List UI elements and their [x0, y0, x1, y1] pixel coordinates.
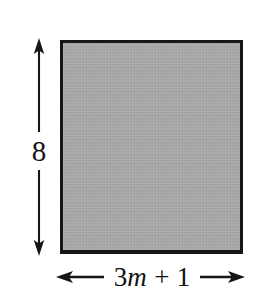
height-dimension-label: 8: [26, 132, 52, 170]
width-arrow-head-right: [228, 271, 245, 283]
width-label-variable: m: [127, 262, 147, 292]
width-label-coefficient: 3: [114, 262, 128, 292]
width-dimension-label: 3m + 1: [104, 262, 200, 292]
width-label-constant: 1: [177, 262, 191, 292]
figure-canvas: 8 3m + 1: [0, 0, 263, 293]
shaded-rectangle: [60, 40, 243, 254]
width-arrow-head-left: [56, 271, 73, 283]
width-label-operator: +: [154, 262, 169, 292]
height-arrow-head-up: [34, 38, 44, 54]
height-arrow-head-down: [34, 240, 44, 256]
